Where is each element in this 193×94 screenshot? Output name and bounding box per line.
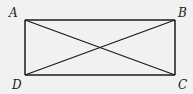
rectangle-diagram: A B C D [0, 0, 193, 94]
vertex-label-b: B [177, 6, 187, 20]
vertex-label-d: D [11, 78, 22, 92]
vertex-label-c: C [178, 78, 187, 92]
vertex-label-a: A [8, 6, 18, 20]
